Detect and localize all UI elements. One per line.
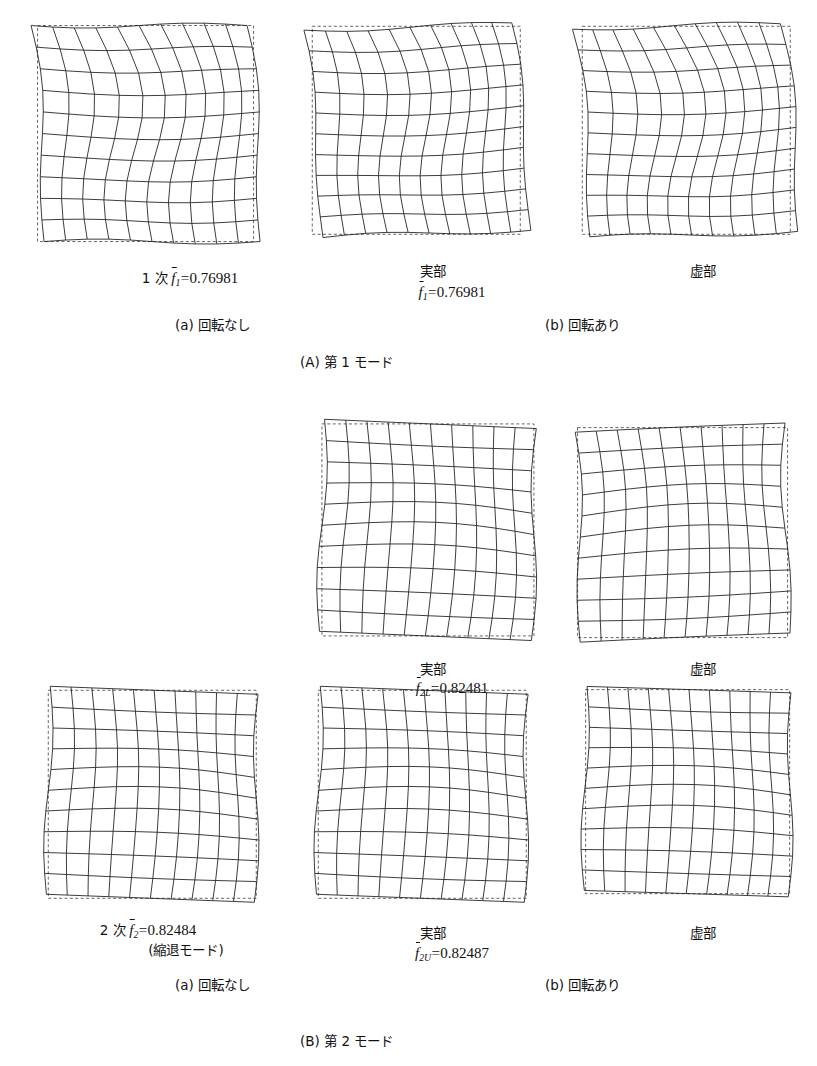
row3-left-frequency-caption: 2 次 f2=0.82484: [100, 920, 197, 942]
mesh-mode2U-rotation-real: [285, 657, 560, 932]
deformed-mesh: [43, 686, 258, 902]
mesh-mode1-no-rotation: [3, 0, 288, 277]
row3-subcaption-a: (a) 回転なし: [175, 976, 250, 996]
mode-shape-figure: 1 次 f1=0.76981 実部 虚部 f1=0.76981 (a) 回転なし…: [0, 0, 817, 1066]
row1-subcaption-b: (b) 回転あり: [545, 316, 620, 336]
undeformed-reference-box: [582, 26, 790, 234]
deformed-mesh: [32, 24, 261, 245]
row1-imag-part-label: 虚部: [690, 262, 716, 282]
undeformed-reference-box: [586, 690, 790, 894]
undeformed-reference-box: [312, 26, 520, 234]
section-a-caption: (A) 第 1 モード: [300, 353, 393, 373]
row3-imag-part-label: 虚部: [690, 924, 716, 944]
mesh-mode1-rotation-imag: [549, 0, 817, 267]
undeformed-reference-box: [322, 424, 534, 636]
undeformed-reference-box: [318, 690, 526, 898]
mesh-mode2L-rotation-real: [288, 390, 568, 670]
deformed-mesh: [572, 22, 797, 237]
row1-right-frequency-caption: f1=0.76981: [419, 282, 486, 304]
deformed-mesh: [317, 419, 537, 640]
mesh-mode2-no-rotation: [15, 657, 290, 932]
deformed-mesh: [314, 686, 529, 902]
deformed-mesh: [576, 423, 792, 642]
row3-real-part-label: 実部: [420, 924, 446, 944]
mesh-mode2U-rotation-imag: [553, 657, 817, 926]
row1-real-part-label: 実部: [420, 262, 446, 282]
deformed-mesh: [304, 22, 531, 237]
row3-subcaption-b: (b) 回転あり: [545, 976, 620, 996]
deformed-mesh: [581, 687, 793, 897]
mesh-mode1-rotation-real: [279, 0, 554, 267]
row1-subcaption-a: (a) 回転なし: [175, 316, 250, 336]
undeformed-reference-box: [578, 428, 788, 638]
row3-frequency-caption: f2U=0.82487: [415, 943, 489, 965]
row1-left-frequency-caption: 1 次 f1=0.76981: [142, 268, 239, 290]
row3-left-note: (縮退モード): [148, 941, 224, 961]
section-b-caption: (B) 第 2 モード: [300, 1032, 393, 1052]
undeformed-reference-box: [48, 690, 256, 898]
mesh-mode2L-rotation-imag: [544, 394, 817, 671]
